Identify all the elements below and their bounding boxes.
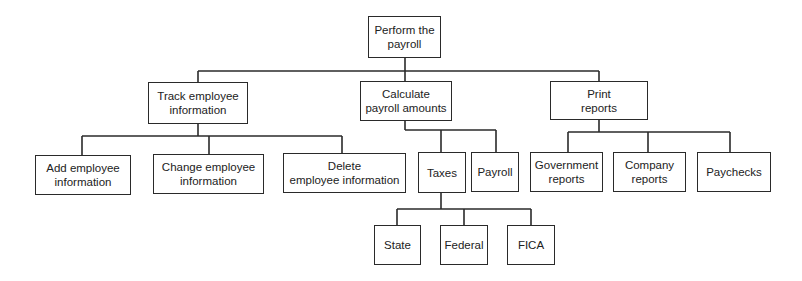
node-change-employee-information: Change employeeinformation <box>153 154 264 194</box>
node-label-line: FICA <box>518 238 544 252</box>
node-label-line: reports <box>535 172 598 186</box>
node-state: State <box>374 225 421 265</box>
node-delete-employee-information: Deleteemployee information <box>283 153 406 193</box>
node-label-line: Delete <box>290 159 400 173</box>
node-label-line: Add employee <box>46 161 120 175</box>
node-label-line: information <box>162 174 255 188</box>
node-label-line: information <box>157 103 238 117</box>
node-federal: Federal <box>440 225 488 265</box>
node-label-line: Calculate <box>365 87 446 101</box>
node-perform-the-payroll: Perform thepayroll <box>368 16 441 58</box>
node-label-line: Taxes <box>427 166 457 180</box>
node-taxes: Taxes <box>418 152 466 193</box>
node-label-line: Track employee <box>157 89 238 103</box>
node-calculate-payroll-amounts: Calculatepayroll amounts <box>360 81 452 121</box>
node-government-reports: Governmentreports <box>530 152 603 192</box>
node-label-line: reports <box>625 172 674 186</box>
node-payroll: Payroll <box>471 152 519 192</box>
hierarchy-diagram: Perform thepayroll Track employeeinforma… <box>0 0 802 281</box>
node-label-line: employee information <box>290 173 400 187</box>
node-company-reports: Companyreports <box>613 152 686 192</box>
node-label-line: State <box>384 238 411 252</box>
node-label-line: Paychecks <box>706 165 762 179</box>
node-add-employee-information: Add employeeinformation <box>35 155 131 195</box>
node-label-line: payroll amounts <box>365 101 446 115</box>
node-label-line: Change employee <box>162 160 255 174</box>
node-label-line: Government <box>535 158 598 172</box>
node-label-line: Perform the <box>374 23 434 37</box>
node-label-line: Federal <box>445 238 484 252</box>
node-label-line: payroll <box>374 37 434 51</box>
node-label-line: reports <box>581 101 617 115</box>
node-label-line: Print <box>581 87 617 101</box>
node-print-reports: Printreports <box>550 81 648 120</box>
node-label-line: Company <box>625 158 674 172</box>
node-fica: FICA <box>507 225 555 265</box>
node-label-line: Payroll <box>477 165 512 179</box>
node-paychecks: Paychecks <box>697 152 771 192</box>
node-label-line: information <box>46 175 120 189</box>
node-track-employee-information: Track employeeinformation <box>148 82 248 124</box>
